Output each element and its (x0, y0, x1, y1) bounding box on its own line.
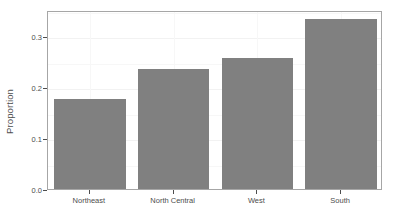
x-axis-tick-mark (89, 190, 90, 194)
x-axis-tick-mark (256, 190, 257, 194)
bar (305, 19, 377, 189)
x-axis-tick-label: West (248, 196, 265, 205)
y-axis-tick-label: 0.2 (22, 84, 42, 93)
y-axis-tick-label: 0.1 (22, 135, 42, 144)
y-axis-title: Proportion (0, 0, 18, 223)
y-axis-tick-mark (43, 190, 47, 191)
x-axis-tick-label: North Central (150, 196, 195, 205)
x-axis-tick-label: Northeast (73, 196, 106, 205)
y-axis-tick-mark (43, 88, 47, 89)
y-axis-tick-mark (43, 37, 47, 38)
y-axis-tick-mark (43, 139, 47, 140)
x-axis-tick-mark (340, 190, 341, 194)
x-axis-tick-label: South (330, 196, 350, 205)
bar (222, 58, 294, 189)
plot-panel (47, 11, 382, 190)
gridline-minor (48, 13, 381, 14)
bar-chart: Proportion 0.00.10.20.3 NortheastNorth C… (0, 0, 398, 223)
x-axis-tick-mark (173, 190, 174, 194)
y-axis-tick-labels: 0.00.10.20.3 (22, 0, 42, 223)
y-axis-tick-label: 0.3 (22, 33, 42, 42)
bar (54, 99, 126, 189)
y-axis-tick-label: 0.0 (22, 186, 42, 195)
bar (138, 69, 210, 189)
